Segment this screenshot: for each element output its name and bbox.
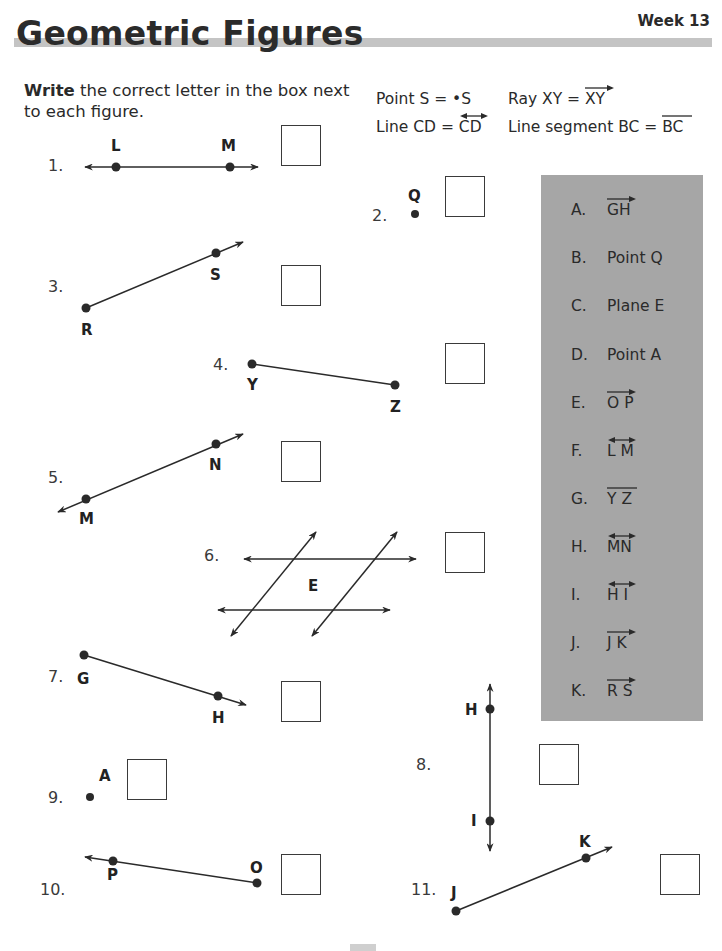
answer-box-9[interactable]: [127, 759, 167, 800]
page-footer-mark: [350, 944, 376, 951]
problem-number-7: 7.: [48, 667, 63, 686]
segment-yz: [252, 364, 395, 385]
label-l: L: [111, 137, 121, 155]
point-s: [212, 249, 221, 258]
label-k: K: [579, 833, 591, 851]
page-title: Geometric Figures: [16, 14, 364, 54]
point-p: [109, 857, 118, 866]
label-g: G: [77, 670, 89, 688]
label-p: P: [107, 866, 118, 884]
problem-number-3: 3.: [48, 277, 63, 296]
answer-box-3[interactable]: [281, 265, 321, 306]
point-k: [582, 854, 591, 863]
answer-box-7[interactable]: [281, 681, 321, 722]
answer-box-6[interactable]: [445, 532, 485, 573]
point-l: [112, 163, 121, 172]
label-m: M: [221, 137, 236, 155]
label-o: O: [250, 859, 263, 877]
label-y: Y: [247, 376, 258, 394]
problem-number-11: 11.: [411, 880, 436, 899]
geometric-figures-drawing: [0, 0, 722, 951]
problem-number-9: 9.: [48, 788, 63, 807]
answer-box-4[interactable]: [445, 343, 485, 384]
point-i: [486, 817, 495, 826]
problem-number-5: 5.: [48, 468, 63, 487]
point-n: [212, 440, 221, 449]
label-e: E: [308, 577, 318, 595]
point-y: [248, 360, 257, 369]
point-h: [214, 692, 223, 701]
answer-box-1[interactable]: [281, 125, 321, 166]
label-h2: H: [465, 701, 478, 719]
answer-box-8[interactable]: [539, 744, 579, 785]
point-a: [86, 793, 94, 801]
point-g: [80, 651, 89, 660]
label-i: I: [471, 812, 477, 830]
answer-box-2[interactable]: [445, 176, 485, 217]
plane-line-right: [312, 532, 397, 636]
problem-number-4: 4.: [213, 355, 228, 374]
label-s: S: [210, 266, 221, 284]
problem-number-6: 6.: [204, 546, 219, 565]
label-j: J: [451, 884, 457, 902]
answer-box-10[interactable]: [281, 854, 321, 895]
problem-number-2: 2.: [372, 206, 387, 225]
point-q: [411, 210, 419, 218]
problem-number-10: 10.: [40, 880, 65, 899]
point-r: [82, 304, 91, 313]
label-q: Q: [408, 187, 421, 205]
point-o: [253, 879, 262, 888]
point-z: [391, 381, 400, 390]
point-m: [226, 163, 235, 172]
answer-box-11[interactable]: [660, 854, 700, 895]
point-j: [452, 907, 461, 916]
problem-number-8: 8.: [416, 755, 431, 774]
point-m2: [82, 495, 91, 504]
answer-box-5[interactable]: [281, 441, 321, 482]
plane-line-left: [231, 532, 316, 636]
label-h: H: [212, 709, 225, 727]
label-m2: M: [79, 510, 94, 528]
label-a: A: [99, 767, 111, 785]
label-r: R: [81, 321, 93, 339]
label-z: Z: [390, 398, 401, 416]
problem-number-1: 1.: [48, 156, 63, 175]
point-h2: [486, 705, 495, 714]
label-n: N: [209, 456, 222, 474]
